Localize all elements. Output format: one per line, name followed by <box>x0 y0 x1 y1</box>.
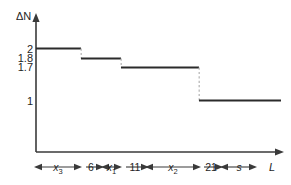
ruler-label-s: s <box>236 161 242 173</box>
step-curve <box>36 49 281 101</box>
y-axis-label: ΔN <box>16 10 31 22</box>
step-function-chart: 2 1.8 1.7 1 ΔN L <box>0 0 291 185</box>
y-tick-1-7: 1.7 <box>18 61 33 73</box>
ruler-label-21: 21 <box>205 161 217 173</box>
y-tick-1: 1 <box>27 95 33 107</box>
ruler-label-x2-sub: 2 <box>174 167 178 176</box>
x-axis-arrowhead <box>275 148 284 155</box>
y-axis-arrowhead <box>32 13 39 22</box>
ruler-label-x2: x2 <box>167 161 177 176</box>
ruler-label-x1-sub: 1 <box>112 167 116 176</box>
ruler-label-6: 6 <box>88 161 94 173</box>
segment-ruler: x3 6 x1 11 x2 21 s <box>34 161 257 176</box>
y-tick-labels: 2 1.8 1.7 1 <box>18 43 33 107</box>
ruler-label-x1: x1 <box>106 161 116 176</box>
ruler-label-x3: x3 <box>52 161 62 176</box>
ruler-label-x3-sub: 3 <box>59 167 63 176</box>
x-axis-label: L <box>269 161 275 173</box>
chart-canvas: 2 1.8 1.7 1 ΔN L <box>0 0 291 185</box>
x-axis <box>36 148 284 155</box>
y-axis <box>32 13 39 152</box>
ruler-label-11: 11 <box>130 161 141 173</box>
